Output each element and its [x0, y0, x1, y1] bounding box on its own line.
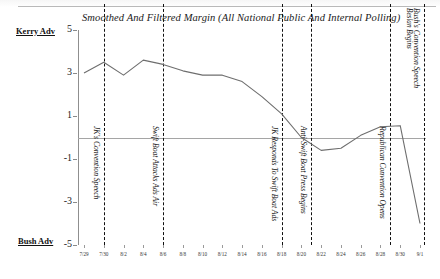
x-tick-mark — [341, 245, 342, 248]
x-tick-label: 8/16 — [257, 251, 266, 257]
x-tick-label: 8/28 — [376, 251, 385, 257]
y-tick-mark — [73, 116, 77, 117]
x-tick-mark — [361, 245, 362, 248]
x-tick-label: 8/14 — [237, 251, 246, 257]
x-tick-label: 8/6 — [160, 251, 167, 257]
y-tick-label: 5 — [50, 23, 72, 34]
chart-title: Smoothed And Filtered Margin (All Nation… — [82, 12, 422, 23]
y-tick-label: 3 — [50, 66, 72, 77]
x-tick-mark — [242, 245, 243, 248]
x-tick-label: 8/8 — [179, 251, 186, 257]
x-tick-mark — [420, 245, 421, 248]
x-tick-mark — [262, 245, 263, 248]
y-tick-mark — [73, 245, 77, 246]
x-tick-mark — [84, 245, 85, 248]
x-tick-label: 8/2 — [120, 251, 127, 257]
y-tick-label: -3 — [50, 195, 72, 206]
data-series-line — [78, 30, 426, 245]
y-tick-mark — [73, 73, 77, 74]
x-tick-label: 8/22 — [317, 251, 326, 257]
x-tick-label: 8/26 — [356, 251, 365, 257]
y-tick-mark — [73, 159, 77, 160]
x-tick-mark — [301, 245, 302, 248]
y-tick-label: -5 — [50, 238, 72, 249]
x-tick-label: 8/24 — [336, 251, 345, 257]
x-tick-mark — [203, 245, 204, 248]
x-tick-mark — [124, 245, 125, 248]
y-tick-label: -1 — [50, 152, 72, 163]
x-tick-mark — [400, 245, 401, 248]
x-tick-label: 8/30 — [396, 251, 405, 257]
x-tick-label: 8/10 — [198, 251, 207, 257]
x-tick-label: 8/20 — [297, 251, 306, 257]
x-tick-label: 9/1 — [417, 251, 424, 257]
y-tick-label: 1 — [50, 109, 72, 120]
chart-root: Smoothed And Filtered Margin (All Nation… — [0, 0, 440, 279]
x-tick-mark — [143, 245, 144, 248]
plot-area: 531-1-3-5 7/297/308/28/48/68/88/108/128/… — [78, 30, 426, 245]
x-tick-mark — [282, 245, 283, 248]
y-tick-mark — [73, 202, 77, 203]
x-tick-label: 8/4 — [140, 251, 147, 257]
x-tick-label: 7/30 — [99, 251, 108, 257]
x-tick-mark — [321, 245, 322, 248]
scan-artifact-line — [18, 6, 436, 7]
x-tick-label: 8/18 — [277, 251, 286, 257]
y-tick-mark — [73, 30, 77, 31]
x-tick-mark — [222, 245, 223, 248]
axis-label-bush-advantage: Bush Adv — [18, 236, 53, 246]
x-tick-mark — [104, 245, 105, 248]
series-polyline — [84, 60, 420, 223]
x-tick-mark — [183, 245, 184, 248]
x-tick-mark — [163, 245, 164, 248]
x-tick-label: 8/12 — [218, 251, 227, 257]
x-tick-label: 7/29 — [79, 251, 88, 257]
x-tick-mark — [380, 245, 381, 248]
